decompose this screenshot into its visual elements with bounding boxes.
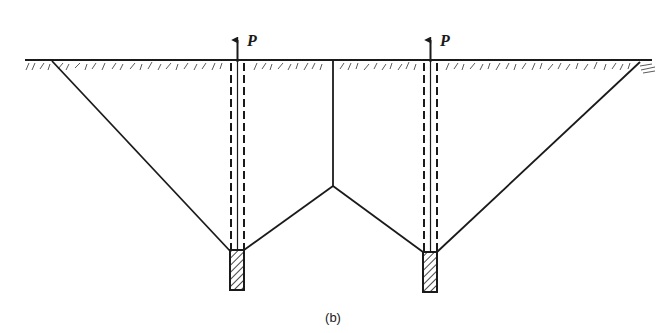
diagram-canvas: P P (b) [0,0,667,333]
failure-surface [52,61,640,252]
left-load-arrow: P [238,32,258,62]
left-outer-failure-line [52,61,231,252]
right-anchor-block [423,252,437,292]
right-inner-failure-line [333,186,423,252]
left-load-label: P [246,32,257,49]
right-outer-failure-line [437,62,640,252]
left-inner-failure-line [244,186,333,250]
left-pile [230,60,244,290]
right-pile [423,60,437,292]
figure-caption: (b) [325,310,341,325]
right-load-label: P [439,32,450,49]
soil-hatching [26,62,655,73]
ground-surface [25,60,655,73]
right-load-arrow: P [431,32,451,62]
left-anchor-block [230,250,244,290]
